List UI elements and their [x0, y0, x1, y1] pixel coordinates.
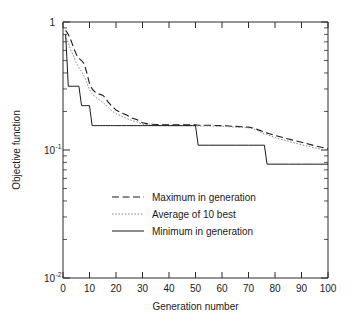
x-tick-label: 30 [137, 283, 149, 294]
x-tick-label: 100 [320, 283, 337, 294]
y-tick-label: 10-2 [44, 271, 62, 284]
y-tick-label-mantissa: 10 [44, 145, 56, 156]
x-tick-label: 60 [216, 283, 228, 294]
x-tick-label: 10 [84, 283, 96, 294]
series-line-2 [66, 34, 328, 164]
x-tick-label: 80 [269, 283, 281, 294]
y-axis-title: Objective function [11, 110, 22, 190]
y-tick-label-mantissa: 10 [44, 273, 56, 284]
x-tick-label: 70 [243, 283, 255, 294]
y-tick-label-exponent: -2 [56, 271, 62, 278]
x-tick-label: 0 [60, 283, 66, 294]
legend-label-1: Average of 10 best [152, 209, 236, 220]
chart-figure: 110-110-20102030405060708090100Generatio… [0, 0, 353, 329]
x-tick-label: 50 [190, 283, 202, 294]
y-tick-label: 1 [49, 17, 55, 28]
y-tick-label-mantissa: 1 [49, 17, 55, 28]
x-tick-label: 40 [163, 283, 175, 294]
x-tick-label: 20 [110, 283, 122, 294]
x-tick-label: 90 [296, 283, 308, 294]
legend-label-2: Minimum in generation [152, 226, 253, 237]
objective-function-convergence-chart: 110-110-20102030405060708090100Generatio… [0, 0, 353, 329]
y-tick-label-exponent: -1 [56, 143, 62, 150]
legend-label-0: Maximum in generation [152, 192, 256, 203]
x-axis-title: Generation number [152, 301, 239, 312]
y-tick-label: 10-1 [44, 143, 62, 156]
series-line-0 [66, 30, 328, 149]
